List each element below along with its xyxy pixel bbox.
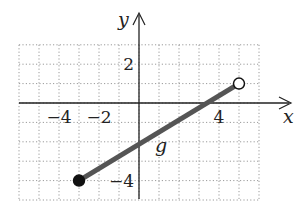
x-tick-label: 4 — [214, 107, 225, 127]
open-endpoint-circle — [234, 78, 245, 89]
closed-endpoint-dot — [74, 175, 85, 186]
x-tick-label: −4 — [46, 107, 71, 127]
y-tick-label: −4 — [109, 171, 134, 191]
axes — [19, 13, 291, 199]
segment-g — [79, 84, 239, 181]
x-axis-label: x — [283, 105, 294, 127]
x-tick-label: −2 — [86, 107, 111, 127]
series-g — [74, 78, 245, 186]
y-axis-label: y — [117, 8, 129, 30]
function-label-g: g — [155, 134, 167, 156]
y-tick-label: 2 — [123, 54, 134, 74]
function-graph: x y −4−242−4 g — [0, 0, 305, 223]
